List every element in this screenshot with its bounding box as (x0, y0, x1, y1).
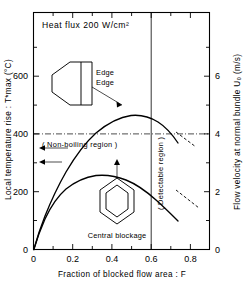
central-blockage-schematic (100, 178, 134, 224)
ytick-label-600: 600 (13, 71, 28, 81)
bottom-axis-ticks (34, 244, 191, 250)
non-boiling-region-label: ( Non-boiling region ) (42, 140, 118, 149)
ytick-label-200: 200 (13, 187, 28, 197)
central-blockage-arrowhead (114, 159, 120, 165)
edge-blockage-arrowhead (117, 102, 123, 108)
y-axis-right-title: Flow velocity at normal bundle U₀ (m/s) (233, 54, 242, 210)
right-axis-ticks (204, 47, 210, 249)
ytick-label-400: 400 (13, 129, 28, 139)
xtick-label-0.2: 0.2 (66, 254, 79, 264)
x-axis-title: Fraction of blocked flow area : F (58, 270, 186, 279)
central-blockage-label: Central blockage (88, 231, 147, 240)
xtick-label-0.6: 0.6 (145, 254, 158, 264)
xtick-label-0.8: 0.8 (184, 254, 197, 264)
ytick-right-label-2: 2 (215, 187, 220, 197)
chart-svg: Heat flux 200 W/cm² 0 200 400 600 0 2 4 … (0, 0, 248, 283)
edge-blockage-label-line1: Edge (96, 68, 114, 77)
figure-container: Heat flux 200 W/cm² 0 200 400 600 0 2 4 … (0, 0, 248, 283)
xtick-label-0.4: 0.4 (106, 254, 119, 264)
detectable-region-leaders (176, 132, 199, 208)
top-axis-ticks (53, 13, 190, 19)
ytick-right-label-6: 6 (215, 71, 220, 81)
ytick-label-0: 0 (23, 245, 28, 255)
plot-title: Heat flux 200 W/cm² (42, 20, 129, 30)
ytick-right-label-4: 4 (215, 129, 220, 139)
left-axis-ticks (34, 47, 40, 249)
detectable-region-label: ( Detectable region ) (156, 137, 165, 210)
xtick-label-0: 0 (31, 254, 36, 264)
edge-blockage-schematic (52, 62, 92, 105)
edge-blockage-label-line2: Edge (96, 78, 114, 87)
ytick-right-label-0: 0 (215, 245, 220, 255)
y-axis-title: Local temperature rise : T*max (°C) (4, 59, 13, 200)
